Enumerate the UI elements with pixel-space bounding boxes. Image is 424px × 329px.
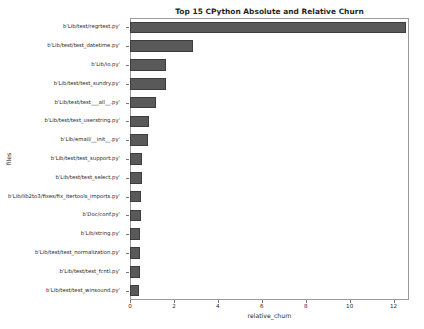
x-tick-label: 0 <box>128 304 132 310</box>
bar-row[interactable] <box>130 22 409 34</box>
x-tick-label: 4 <box>216 304 220 310</box>
y-tick-label: b'Lib/test/test_datetime.py' <box>47 44 120 49</box>
x-axis-label: relative_churn <box>130 312 409 319</box>
bar-row[interactable] <box>130 97 409 109</box>
y-tick-mark <box>126 234 129 235</box>
y-tick-label: b'Lib/test/test_sundry.py' <box>54 81 120 86</box>
bar[interactable] <box>130 266 140 278</box>
bar[interactable] <box>130 78 166 90</box>
y-tick-mark <box>126 84 129 85</box>
y-tick-label: b'Lib/test/test_support.py' <box>51 156 120 161</box>
y-tick-mark <box>126 65 129 66</box>
bar[interactable] <box>130 285 139 297</box>
chart-figure: Top 15 CPython Absolute and Relative Chu… <box>0 0 424 329</box>
bar-row[interactable] <box>130 191 409 203</box>
bar-row[interactable] <box>130 134 409 146</box>
bar[interactable] <box>130 40 193 52</box>
bar-row[interactable] <box>130 210 409 222</box>
bar[interactable] <box>130 116 149 128</box>
bar[interactable] <box>130 191 141 203</box>
y-tick-mark <box>126 121 129 122</box>
y-tick-label: b'Lib/test/regrtest.py' <box>63 25 120 30</box>
bars-container <box>130 18 409 300</box>
x-tick-label: 2 <box>172 304 176 310</box>
bar-row[interactable] <box>130 40 409 52</box>
y-tick-label: b'Lib/test/test_normalization.py' <box>35 250 120 255</box>
x-tick-label: 10 <box>346 304 353 310</box>
bar[interactable] <box>130 22 406 34</box>
y-tick-mark <box>126 272 129 273</box>
bar[interactable] <box>130 247 140 259</box>
bar-row[interactable] <box>130 228 409 240</box>
y-tick-mark <box>126 103 129 104</box>
bar-row[interactable] <box>130 247 409 259</box>
bar[interactable] <box>130 172 142 184</box>
bar-row[interactable] <box>130 59 409 71</box>
y-tick-mark <box>126 253 129 254</box>
bar[interactable] <box>130 134 148 146</box>
bar[interactable] <box>130 153 142 165</box>
y-tick-mark <box>126 215 129 216</box>
y-tick-label: b'Lib/test/test_userstring.py' <box>44 119 120 124</box>
bar-row[interactable] <box>130 78 409 90</box>
y-axis-ticklabels: b'Lib/test/regrtest.py'b'Lib/test/test_d… <box>0 18 126 300</box>
bar-row[interactable] <box>130 172 409 184</box>
bar-row[interactable] <box>130 153 409 165</box>
y-tick-mark <box>126 140 129 141</box>
y-tick-label: b'Doc/conf.py' <box>83 213 120 218</box>
bar-row[interactable] <box>130 285 409 297</box>
y-tick-label: b'Lib/test/test___all__.py' <box>54 100 120 105</box>
bar[interactable] <box>130 210 141 222</box>
bar[interactable] <box>130 228 140 240</box>
y-tick-mark <box>126 46 129 47</box>
y-tick-mark <box>126 27 129 28</box>
y-axis-label: files <box>5 153 12 166</box>
bar[interactable] <box>130 59 166 71</box>
y-tick-label: b'Lib/test/test_winsound.py' <box>46 288 120 293</box>
bar-row[interactable] <box>130 116 409 128</box>
x-tick-label: 6 <box>260 304 264 310</box>
x-tick-label: 12 <box>390 304 397 310</box>
y-tick-label: b'Lib/test/test_select.py' <box>55 175 120 180</box>
bar[interactable] <box>130 97 156 109</box>
y-tick-label: b'Lib/io.py' <box>91 62 120 67</box>
y-tick-label: b'Lib/string.py' <box>81 232 120 237</box>
y-tick-label: b'Lib/test/test_fcntl.py' <box>60 269 121 274</box>
y-tick-mark <box>126 178 129 179</box>
y-tick-label: b'Lib/email/__init__.py' <box>61 138 120 143</box>
x-tick-label: 8 <box>304 304 308 310</box>
chart-title: Top 15 CPython Absolute and Relative Chu… <box>130 7 409 16</box>
bar-row[interactable] <box>130 266 409 278</box>
y-tick-mark <box>126 159 129 160</box>
y-tick-label: b'Lib/lib2to3/fixes/fix_itertools_import… <box>8 194 120 199</box>
y-tick-mark <box>126 197 129 198</box>
y-tick-mark <box>126 291 129 292</box>
